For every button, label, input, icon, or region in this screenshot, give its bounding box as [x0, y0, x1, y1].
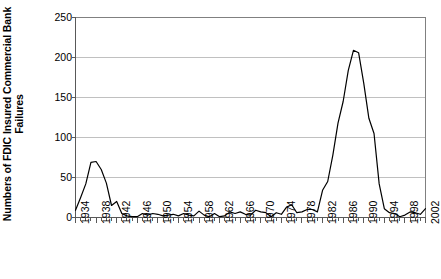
x-axis-tick-label: 1954	[183, 200, 194, 223]
x-axis-tick-label: 1934	[80, 200, 91, 223]
x-axis-tick-label: 1990	[368, 200, 379, 223]
x-axis-tick-label: 2002	[430, 200, 441, 223]
x-axis-tick-label: 1978	[306, 200, 317, 223]
x-axis-tick-label: 1938	[101, 200, 112, 223]
x-axis-tick-label: 1946	[142, 200, 153, 223]
x-axis-tick-label: 1942	[121, 200, 132, 223]
x-axis-tick-label: 1958	[204, 200, 215, 223]
x-axis-tick-label: 1974	[286, 200, 297, 223]
x-axis-tick-label: 1970	[265, 200, 276, 223]
x-axis-tick-label: 1994	[389, 200, 400, 223]
x-axis-tick-label: 1998	[409, 200, 420, 223]
x-axis-tick-label: 1950	[162, 200, 173, 223]
x-axis-tick-label: 1986	[348, 200, 359, 223]
x-axis-tick-label: 1966	[245, 200, 256, 223]
x-axis-tick-label: 1962	[224, 200, 235, 223]
x-axis-tick-label: 1982	[327, 200, 338, 223]
